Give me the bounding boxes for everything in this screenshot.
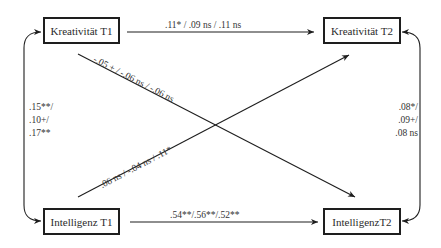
node-label: Intelligenz T1 bbox=[51, 216, 113, 228]
correlation-t2-value: .08*/ bbox=[392, 101, 418, 114]
coef-k1-to-k2: .11* / .09 ns / .11 ns bbox=[165, 21, 241, 31]
correlation-t1-value: .15**/ bbox=[29, 101, 53, 114]
coef-i1-to-i2: .54**/.56**/.52** bbox=[170, 211, 239, 221]
node-intelligenz-t1: Intelligenz T1 bbox=[43, 208, 120, 235]
correlation-t1-values: .15**/ .10+/ .17** bbox=[29, 101, 53, 140]
node-kreativitaet-t2: Kreativität T2 bbox=[323, 17, 401, 44]
correlation-t2-value: .09+/ bbox=[392, 114, 418, 127]
node-label: Kreativität T2 bbox=[331, 25, 393, 37]
correlation-t2-value: .08 ns bbox=[392, 127, 418, 140]
node-label: IntelligenzT2 bbox=[332, 216, 391, 228]
correlation-t1-value: .17** bbox=[29, 127, 53, 140]
node-label: Kreativität T1 bbox=[51, 25, 113, 37]
correlation-t1-value: .10+/ bbox=[29, 114, 53, 127]
node-kreativitaet-t1: Kreativität T1 bbox=[43, 17, 120, 44]
node-intelligenz-t2: IntelligenzT2 bbox=[323, 208, 401, 235]
correlation-t2-values: .08*/ .09+/ .08 ns bbox=[392, 101, 418, 140]
